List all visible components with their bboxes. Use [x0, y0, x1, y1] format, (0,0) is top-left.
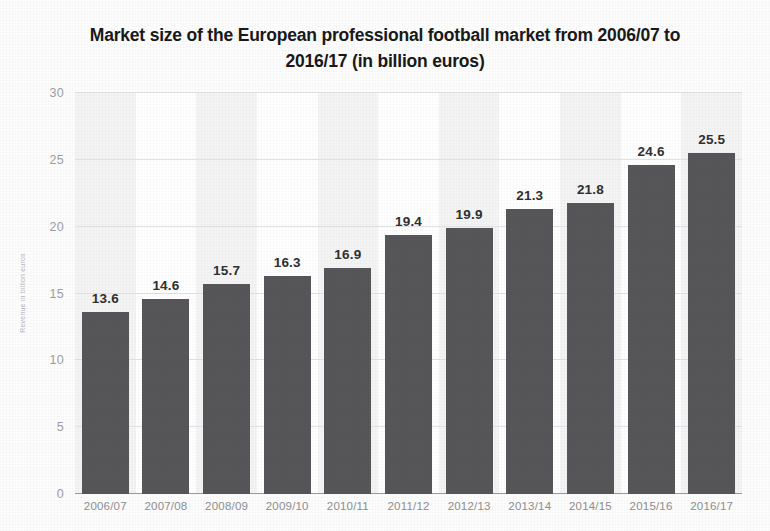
bar[interactable]: 25.5 — [688, 153, 735, 494]
x-axis-tick-label: 2015/16 — [621, 500, 682, 512]
bar[interactable]: 24.6 — [628, 165, 675, 494]
x-axis-tick-label: 2014/15 — [560, 500, 621, 512]
bar-slot: 19.4 — [378, 93, 439, 494]
bar-slot: 25.5 — [681, 93, 742, 494]
y-axis-tick-label: 15 — [24, 287, 64, 301]
bar-value-label: 13.6 — [92, 291, 119, 306]
y-axis-tick-label: 25 — [24, 153, 64, 167]
x-axis-tick-label: 2007/08 — [136, 500, 197, 512]
bar-value-label: 25.5 — [698, 132, 725, 147]
bar-slot: 14.6 — [136, 93, 197, 494]
bar-value-label: 16.9 — [334, 247, 361, 262]
bar[interactable]: 21.3 — [506, 209, 553, 494]
x-axis-tick-label: 2012/13 — [439, 500, 500, 512]
bar-value-label: 16.3 — [274, 255, 301, 270]
bar[interactable]: 14.6 — [142, 299, 189, 494]
x-axis-tick-label: 2013/14 — [499, 500, 560, 512]
bar[interactable]: 21.8 — [567, 203, 614, 494]
x-axis-tick-label: 2009/10 — [257, 500, 318, 512]
y-axis-tick-label: 20 — [24, 220, 64, 234]
bar-slot: 15.7 — [196, 93, 257, 494]
bar-slot: 21.3 — [499, 93, 560, 494]
bar-slot: 16.3 — [257, 93, 318, 494]
bar-value-label: 24.6 — [638, 144, 665, 159]
y-axis-tick-label: 10 — [24, 353, 64, 367]
bar[interactable]: 16.9 — [324, 268, 371, 494]
bar-value-label: 19.9 — [456, 207, 483, 222]
bar-slot: 19.9 — [439, 93, 500, 494]
chart-plot-wrapper: Revenue in billion euros 13.614.615.716.… — [0, 0, 770, 531]
x-axis-tick-label: 2011/12 — [378, 500, 439, 512]
y-axis-tick-label: 5 — [24, 420, 64, 434]
y-axis-tick-label: 30 — [24, 86, 64, 100]
plot-area: 13.614.615.716.316.919.419.921.321.824.6… — [75, 93, 742, 494]
bar-value-label: 15.7 — [213, 263, 240, 278]
bar-slot: 13.6 — [75, 93, 136, 494]
bar[interactable]: 13.6 — [82, 312, 129, 494]
bar[interactable]: 19.9 — [446, 228, 493, 494]
y-axis-tick-label: 0 — [24, 487, 64, 501]
bar-slot: 24.6 — [621, 93, 682, 494]
bar-slot: 16.9 — [318, 93, 379, 494]
x-axis-ticks: 2006/072007/082008/092009/102010/112011/… — [75, 500, 742, 512]
bar-value-label: 14.6 — [152, 278, 179, 293]
bar[interactable]: 19.4 — [385, 235, 432, 494]
x-axis-tick-label: 2010/11 — [318, 500, 379, 512]
x-axis-tick-label: 2006/07 — [75, 500, 136, 512]
bar-series: 13.614.615.716.316.919.419.921.321.824.6… — [75, 93, 742, 494]
bar-value-label: 21.8 — [577, 182, 604, 197]
x-axis-tick-label: 2016/17 — [681, 500, 742, 512]
bar-value-label: 19.4 — [395, 214, 422, 229]
bar[interactable]: 16.3 — [264, 276, 311, 494]
x-axis-tick-label: 2008/09 — [196, 500, 257, 512]
bar-slot: 21.8 — [560, 93, 621, 494]
bar-value-label: 21.3 — [516, 188, 543, 203]
bar[interactable]: 15.7 — [203, 284, 250, 494]
